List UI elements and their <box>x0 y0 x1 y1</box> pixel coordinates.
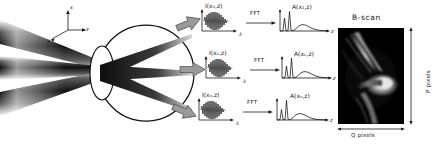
fft-label-3: FFT <box>247 99 257 105</box>
ascan-plot-3 <box>275 98 333 126</box>
interferogram-3-label: I(xₙ,z) <box>202 92 219 98</box>
fft-label-1: FFT <box>250 10 260 16</box>
ascan-1-trace <box>280 12 328 32</box>
ascan-2-axis-label: z <box>333 75 336 81</box>
ascan-3-trace <box>277 100 327 120</box>
interferogram-1-trace <box>204 12 228 30</box>
interferogram-3-trace <box>201 101 225 119</box>
interferogram-1-axis-label: λ <box>239 31 242 37</box>
bscan-image <box>338 28 404 124</box>
fft-arrow-2 <box>250 65 282 75</box>
interferogram-2-trace <box>208 59 232 77</box>
fft-arrow-3 <box>243 107 275 117</box>
oct-bscan-formation-figure: x z y I(x₁,z) λ <box>0 0 436 144</box>
ascan-1-label: A(x₁,z) <box>292 4 312 10</box>
ascan-plot-2 <box>280 56 336 84</box>
bscan-horizontal-axis-label: Q pixels <box>351 132 375 138</box>
bscan-image-content <box>338 28 404 124</box>
interferogram-3-axis-label: λ <box>236 120 239 126</box>
axis-label-x: x <box>70 4 73 10</box>
ascan-2-trace <box>282 58 330 78</box>
bscan-haze <box>345 48 397 108</box>
ascan-3-label: A(xₙ,z) <box>290 93 310 99</box>
axis-label-y: y <box>47 37 50 43</box>
ascan-plot-1 <box>278 9 334 37</box>
fft-arrow-1 <box>246 18 278 28</box>
axis-x-arrowhead <box>66 10 70 14</box>
interferogram-2-label: I(xₖ,z) <box>209 50 227 56</box>
bscan-title: B-scan <box>352 13 381 22</box>
bscan-vertical-dimension-arrow <box>406 26 416 126</box>
bscan-vertical-axis-label: P pixels <box>425 70 431 93</box>
axis-y-line <box>52 30 68 39</box>
interferogram-1-label: I(x₁,z) <box>205 3 222 9</box>
ascan-1-axis-label: z <box>331 28 334 34</box>
transfer-arrow-3 <box>172 104 198 120</box>
interferogram-plot-1 <box>199 9 241 37</box>
interferogram-plot-3 <box>196 98 238 126</box>
ascan-3-axis-label: z <box>330 117 333 123</box>
interferogram-plot-2 <box>203 56 245 84</box>
interferogram-2-axis-label: λ <box>243 78 246 84</box>
fft-label-2: FFT <box>254 57 264 63</box>
ascan-2-label: A(xₖ,z) <box>294 51 314 57</box>
